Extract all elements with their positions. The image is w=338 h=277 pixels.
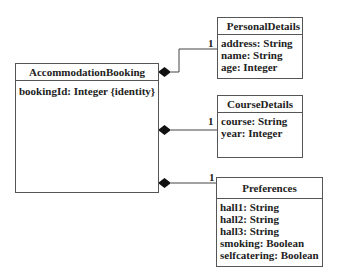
attribute: smoking: Boolean — [220, 237, 319, 249]
attribute: year: Integer — [221, 127, 299, 139]
attribute-list: bookingId: Integer {identity} — [16, 81, 158, 99]
class-name: AccommodationBooking — [16, 64, 158, 81]
attribute: hall1: String — [220, 201, 319, 213]
multiplicity-course: 1 — [208, 116, 214, 127]
multiplicity-prefs: 1 — [209, 172, 215, 183]
multiplicity-personal: 1 — [208, 38, 214, 49]
attribute: hall2: String — [220, 213, 319, 225]
attribute: hall3: String — [220, 225, 319, 237]
attribute: course: String — [221, 115, 299, 127]
class-course-details: CourseDetails course: String year: Integ… — [217, 95, 303, 158]
class-personal-details: PersonalDetails address: String name: St… — [217, 17, 303, 79]
class-name: PersonalDetails — [218, 18, 302, 35]
class-name: CourseDetails — [218, 96, 302, 113]
attribute-list: course: String year: Integer — [218, 113, 302, 141]
attribute: selfcatering: Boolean — [220, 249, 319, 261]
composition-diamond-course — [158, 125, 171, 135]
attribute: address: String — [221, 37, 299, 49]
composition-line-personal — [171, 49, 217, 72]
attribute-list: hall1: String hall2: String hall3: Strin… — [217, 199, 322, 263]
composition-diamond-prefs — [158, 178, 171, 188]
attribute-list: address: String name: String age: Intege… — [218, 35, 302, 75]
attribute: age: Integer — [221, 61, 299, 73]
attribute: bookingId: Integer {identity} — [19, 85, 155, 97]
composition-diamond-personal — [158, 67, 171, 77]
attribute: name: String — [221, 49, 299, 61]
class-preferences: Preferences hall1: String hall2: String … — [216, 177, 323, 267]
class-accommodation-booking: AccommodationBooking bookingId: Integer … — [15, 63, 159, 193]
class-name: Preferences — [217, 178, 322, 199]
